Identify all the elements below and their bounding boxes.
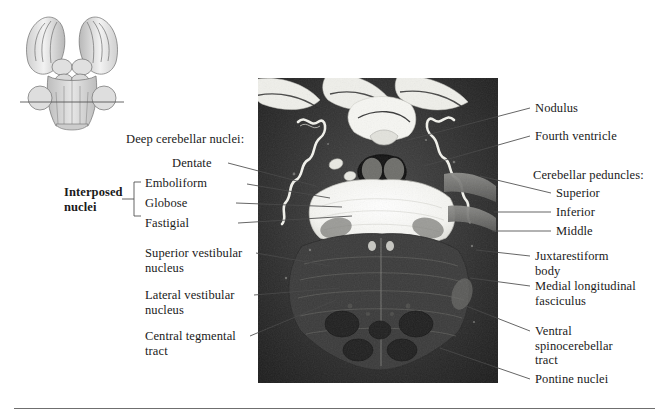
label-pontine-nuclei: Pontine nuclei: [535, 372, 608, 387]
axial-myelin-stained-section: [258, 78, 498, 383]
label-superior-vestibular-nucleus: Superior vestibular nucleus: [145, 246, 242, 275]
label-medial-longitudinal-fasciculus: Medial longitudinal fasciculus: [535, 279, 636, 308]
label-cerebellar-peduncles-heading: Cerebellar peduncles:: [533, 168, 644, 183]
label-central-tegmental-tract: Central tegmental tract: [145, 329, 236, 358]
label-nodulus: Nodulus: [535, 101, 578, 116]
label-dentate: Dentate: [172, 156, 212, 171]
label-fourth-ventricle: Fourth ventricle: [535, 129, 617, 144]
label-fastigial: Fastigial: [145, 216, 189, 231]
anatomical-figure-plate: Deep cerebellar nuclei: Dentate Embolifo…: [0, 0, 669, 419]
brainstem-orientation-inset: [18, 12, 126, 132]
label-deep-cerebellar-nuclei-heading: Deep cerebellar nuclei:: [126, 132, 244, 147]
label-lateral-vestibular-nucleus: Lateral vestibular nucleus: [145, 288, 235, 317]
bottom-divider: [14, 408, 655, 409]
label-ventral-spinocerebellar-tract: Ventral spinocerebellar tract: [535, 324, 613, 368]
label-inferior-peduncle: Inferior: [556, 205, 595, 220]
label-interposed-nuclei: Interposed nuclei: [64, 185, 123, 214]
label-juxtarestiform-body: Juxtarestiform body: [535, 249, 609, 278]
label-globose: Globose: [145, 196, 187, 211]
label-emboliform: Emboliform: [145, 176, 207, 191]
label-middle-peduncle: Middle: [556, 224, 593, 239]
interposed-bracket: [122, 182, 141, 216]
label-superior-peduncle: Superior: [556, 186, 600, 201]
